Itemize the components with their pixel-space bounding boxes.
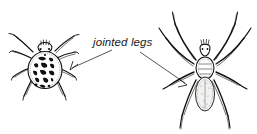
- left-spider-abdomen: [28, 52, 62, 89]
- label-jointed-legs: jointed legs: [91, 36, 153, 48]
- right-spider-cephalothorax: [196, 57, 214, 79]
- illustration-canvas: jointed legs: [0, 0, 257, 134]
- right-spider-abdomen: [196, 77, 215, 111]
- illustration-figure: jointed legs: [0, 0, 257, 134]
